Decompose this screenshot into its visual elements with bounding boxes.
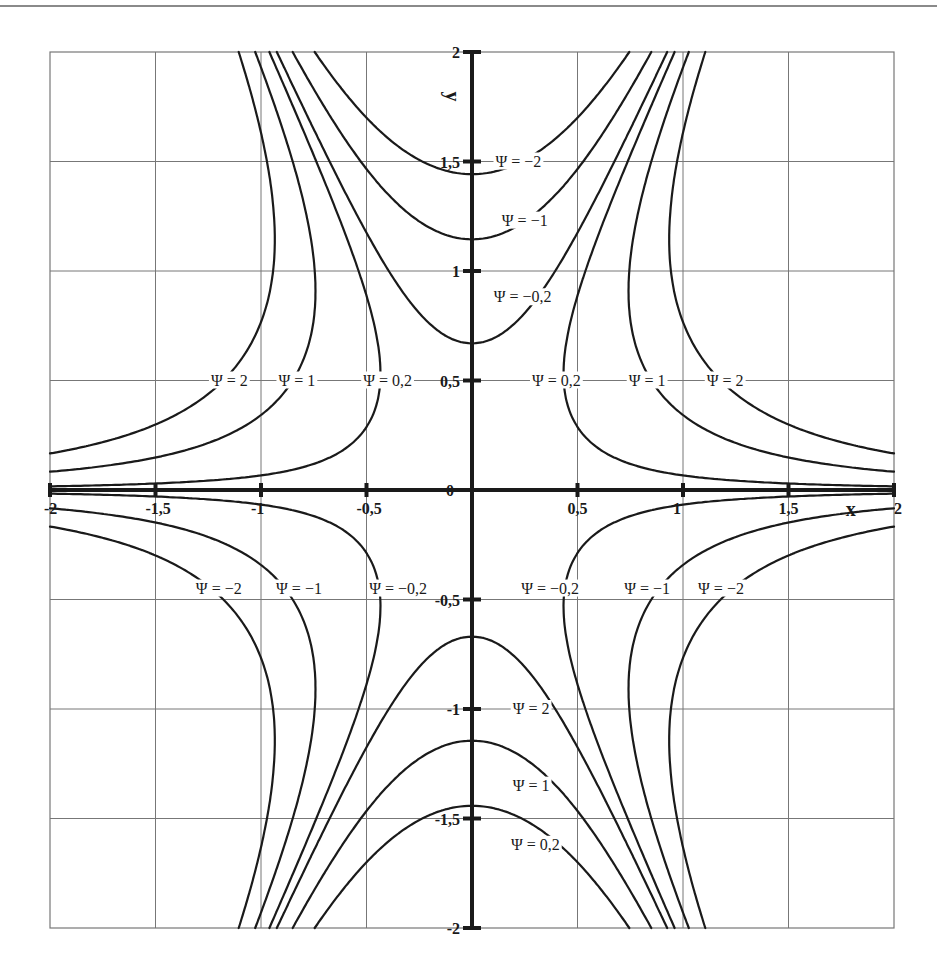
y-tick-label: -1,5: [435, 811, 460, 828]
origin-label: 0: [446, 482, 454, 499]
y-tick-label: 1,5: [440, 154, 460, 171]
x-tick-label: 2: [894, 500, 902, 517]
psi-labels: Ψ = −2Ψ = −1Ψ = −0,2Ψ = 2Ψ = 1Ψ = 0,2Ψ =…: [194, 153, 746, 853]
y-tick-label: 0,5: [440, 373, 460, 390]
psi-label: Ψ = 2: [211, 372, 248, 389]
psi-label: Ψ = 1: [278, 372, 315, 389]
y-tick-label: -1: [447, 701, 460, 718]
y-tick-label: -0,5: [435, 592, 460, 609]
psi-label: Ψ = 2: [707, 372, 744, 389]
x-axis-label: x: [846, 498, 856, 520]
psi-label: Ψ = 1: [513, 777, 550, 794]
psi-label: Ψ = −2: [495, 153, 541, 170]
x-tick-label: -1,5: [146, 500, 171, 517]
psi-label: Ψ = 0,2: [532, 372, 581, 389]
x-tick-label: 1: [673, 500, 681, 517]
psi-label: Ψ = 2: [513, 700, 550, 717]
psi-label: Ψ = −1: [624, 580, 670, 597]
stream-function-chart: -2-1,5-1-0,500,511,5221,510,5-0,5-1-1,5-…: [0, 0, 937, 972]
psi-label: Ψ = 0,2: [511, 836, 560, 853]
psi-label: Ψ = −2: [698, 580, 744, 597]
psi-label: Ψ = −1: [502, 212, 548, 229]
psi-label: Ψ = −1: [276, 580, 322, 597]
axes: [50, 52, 894, 928]
psi-label: Ψ = −0,2: [369, 580, 427, 597]
psi-label: Ψ = −2: [196, 580, 242, 597]
y-tick-label: 1: [452, 263, 460, 280]
psi-label: Ψ = −0,2: [521, 580, 579, 597]
y-axis-label: y: [441, 91, 464, 101]
x-tick-label: 0,5: [568, 500, 588, 517]
x-tick-label: -0,5: [357, 500, 382, 517]
x-tick-label: -2: [44, 500, 57, 517]
psi-label: Ψ = 0,2: [363, 372, 412, 389]
y-tick-label: 2: [452, 44, 460, 61]
psi-label: Ψ = −0,2: [494, 288, 552, 305]
x-tick-label: 1,5: [779, 500, 799, 517]
y-tick-label: -2: [447, 920, 460, 937]
x-tick-label: -1: [251, 500, 264, 517]
psi-label: Ψ = 1: [629, 372, 666, 389]
